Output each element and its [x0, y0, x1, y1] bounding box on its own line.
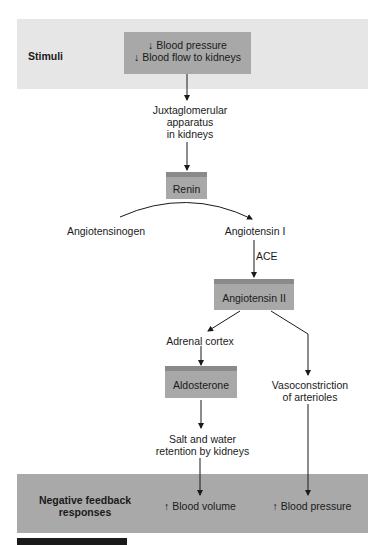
figure-caption-fragment: [17, 538, 127, 545]
flow-arrows: [0, 0, 384, 545]
